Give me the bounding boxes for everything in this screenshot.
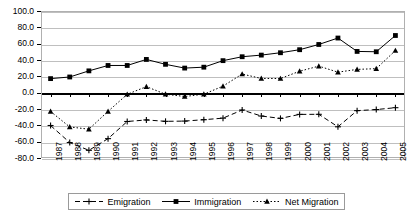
legend-cross-icon <box>74 196 104 207</box>
y-axis-tick-label: -80.0 <box>0 154 34 163</box>
y-axis-tick-label: 20.0 <box>0 72 34 81</box>
legend-label: Emigration <box>107 197 150 207</box>
y-axis-tick-mark <box>37 27 41 28</box>
x-axis-tick-label: 2004 <box>380 142 389 161</box>
x-axis-tick-mark <box>223 94 224 97</box>
legend-entry-immigration: Immigration <box>161 196 241 207</box>
x-axis-tick-label: 1988 <box>74 142 83 161</box>
x-axis-tick-label: 2005 <box>399 142 408 161</box>
x-axis-tick-label: 2002 <box>342 142 351 161</box>
migration-line-chart: 100.080.060.040.020.00.0-20.0-40.0-60.0-… <box>0 0 413 216</box>
legend-entry-net-migration: Net Migration <box>252 196 339 207</box>
x-axis-tick-mark <box>395 94 396 97</box>
chart-legend: EmigrationImmigrationNet Migration <box>68 193 345 210</box>
x-axis-tick-mark <box>280 94 281 97</box>
x-axis-tick-label: 1991 <box>131 142 140 161</box>
x-axis-tick-mark <box>338 94 339 97</box>
y-axis-tick-label: 0.0 <box>0 88 34 97</box>
x-axis-tick-mark <box>300 94 301 97</box>
x-axis-tick-mark <box>261 94 262 97</box>
x-axis-tick-mark <box>376 94 377 97</box>
legend-square-icon <box>161 196 191 207</box>
y-axis-tick-mark <box>37 60 41 61</box>
x-axis-tick-mark <box>51 94 52 97</box>
y-axis-tick-mark <box>37 109 41 110</box>
legend-triangle-icon <box>252 196 282 207</box>
x-axis-tick-label: 1992 <box>150 142 159 161</box>
x-axis-tick-label: 1998 <box>265 142 274 161</box>
x-axis-tick-label: 1987 <box>55 142 64 161</box>
x-axis-tick-label: 1999 <box>284 142 293 161</box>
y-axis-tick-mark <box>37 11 41 12</box>
x-axis-tick-label: 1989 <box>93 142 102 161</box>
chart-series-layer <box>0 0 413 216</box>
x-axis-tick-label: 1997 <box>246 142 255 161</box>
x-axis-tick-mark <box>146 94 147 97</box>
y-axis-tick-label: 40.0 <box>0 56 34 65</box>
x-axis-tick-label: 2000 <box>304 142 313 161</box>
x-axis-tick-mark <box>357 94 358 97</box>
y-axis-tick-mark <box>37 93 41 94</box>
x-axis-tick-label: 1995 <box>208 142 217 161</box>
x-axis-tick-mark <box>185 94 186 97</box>
x-axis-tick-mark <box>108 94 109 97</box>
y-axis-tick-mark <box>37 158 41 159</box>
legend-label: Immigration <box>194 197 241 207</box>
y-axis-tick-mark <box>37 142 41 143</box>
x-axis-tick-mark <box>70 94 71 97</box>
x-axis-tick-label: 1993 <box>170 142 179 161</box>
x-axis-tick-label: 1990 <box>112 142 121 161</box>
legend-entry-emigration: Emigration <box>74 196 150 207</box>
legend-label: Net Migration <box>285 197 339 207</box>
x-axis-tick-label: 1994 <box>189 142 198 161</box>
y-axis-tick-label: -60.0 <box>0 137 34 146</box>
x-axis-tick-mark <box>242 94 243 97</box>
y-axis-tick-mark <box>37 44 41 45</box>
x-axis-tick-mark <box>127 94 128 97</box>
series-immigration <box>48 33 398 81</box>
y-axis-tick-label: 80.0 <box>0 23 34 32</box>
y-axis-tick-mark <box>37 76 41 77</box>
y-axis-tick-mark <box>37 125 41 126</box>
y-axis-tick-label: 100.0 <box>0 7 34 16</box>
x-axis-tick-mark <box>319 94 320 97</box>
x-axis-tick-mark <box>204 94 205 97</box>
y-axis-tick-label: -40.0 <box>0 121 34 130</box>
x-axis-tick-mark <box>89 94 90 97</box>
x-axis-tick-label: 2001 <box>323 142 332 161</box>
x-axis-tick-label: 2003 <box>361 142 370 161</box>
x-axis-tick-mark <box>166 94 167 97</box>
y-axis-tick-label: -20.0 <box>0 105 34 114</box>
x-axis-tick-label: 1996 <box>227 142 236 161</box>
y-axis-tick-label: 60.0 <box>0 39 34 48</box>
